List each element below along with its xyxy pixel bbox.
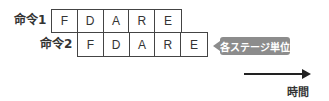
instruction-2-label: 命令2 bbox=[40, 38, 72, 50]
arrow-right-icon bbox=[302, 69, 311, 79]
stage-cell: F bbox=[52, 10, 78, 32]
time-arrow-line bbox=[244, 73, 304, 75]
stage-cell: R bbox=[129, 10, 155, 32]
stage-cell: D bbox=[104, 33, 130, 56]
stage-cell: A bbox=[130, 33, 156, 56]
stage-cell: A bbox=[104, 10, 130, 32]
stage-cell: D bbox=[78, 10, 104, 32]
stage-cell: E bbox=[155, 10, 181, 32]
stage-cell: R bbox=[155, 33, 181, 56]
stage-cell: F bbox=[78, 33, 104, 56]
stage-cell: E bbox=[181, 33, 207, 56]
instruction-1-pipeline: F D A R E bbox=[51, 9, 182, 33]
time-axis-label: 時間 bbox=[287, 83, 309, 99]
stage-unit-callout: 各ステージ単位 bbox=[220, 37, 290, 55]
instruction-2-pipeline: F D A R E bbox=[77, 32, 208, 57]
instruction-1-label: 命令1 bbox=[14, 14, 46, 26]
